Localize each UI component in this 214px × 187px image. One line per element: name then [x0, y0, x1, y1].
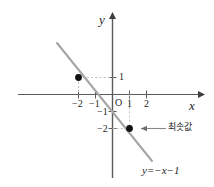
minimum-value-annotation: 최솟값 — [168, 123, 192, 132]
annotation-leader — [141, 126, 166, 131]
y-tick-label-minus2: −2 — [97, 124, 108, 134]
x-tick-label-minus2: −2 — [72, 99, 83, 109]
data-point-minus2-1 — [75, 74, 82, 81]
data-point-1-minus2 — [126, 125, 133, 132]
x-axis-arrowhead — [198, 91, 205, 98]
y-tick-label-1: 1 — [119, 72, 124, 82]
y-axis-label: y — [99, 13, 105, 26]
x-axis-label: x — [189, 99, 195, 112]
x-tick-label-1: 1 — [127, 99, 132, 109]
x-axis — [18, 91, 205, 98]
annotation-arrowhead — [141, 126, 147, 131]
y-axis-arrowhead — [109, 12, 116, 19]
graph-figure: y x O −2 −1 1 2 1 −1 −2 최솟값 y=−x−1 — [0, 0, 214, 187]
coordinate-plane-svg — [0, 0, 214, 187]
y-tick-label-minus1: −1 — [97, 107, 108, 117]
x-tick-label-2: 2 — [144, 99, 149, 109]
origin-label: O — [115, 98, 122, 108]
equation-label: y=−x−1 — [142, 165, 180, 176]
